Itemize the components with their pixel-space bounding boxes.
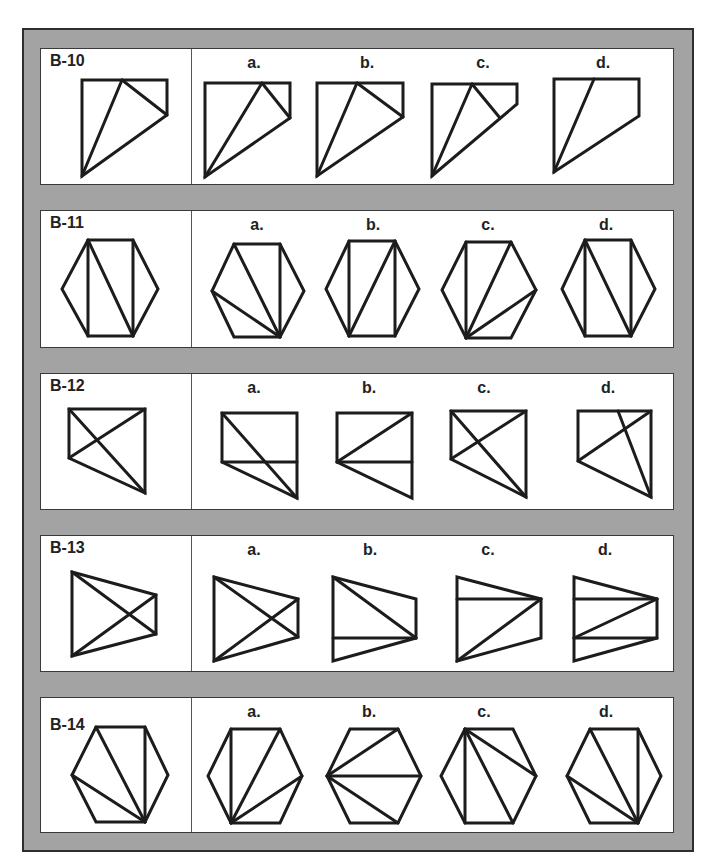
option-label-d[interactable]: d. bbox=[596, 54, 610, 72]
option-label-d[interactable]: d. bbox=[599, 216, 613, 234]
option-label-d[interactable]: d. bbox=[599, 703, 613, 721]
option-label-d[interactable]: d. bbox=[598, 541, 612, 559]
option-label-b[interactable]: b. bbox=[363, 541, 377, 559]
row-divider bbox=[191, 211, 192, 347]
row-divider bbox=[191, 49, 192, 184]
option-label-b[interactable]: b. bbox=[362, 379, 376, 397]
option-label-b[interactable]: b. bbox=[362, 703, 376, 721]
puzzle-row-b10: B-10 a. b. c. d. bbox=[40, 48, 674, 185]
question-label: B-10 bbox=[50, 52, 85, 70]
option-label-a[interactable]: a. bbox=[247, 541, 260, 559]
puzzle-row-b14: B-14 a. b. c. d. bbox=[40, 697, 674, 833]
option-label-c[interactable]: c. bbox=[481, 541, 494, 559]
puzzle-row-b11: B-11 a. b. c. d. bbox=[40, 210, 674, 348]
option-label-c[interactable]: c. bbox=[477, 379, 490, 397]
option-label-c[interactable]: c. bbox=[477, 703, 490, 721]
puzzle-row-b12: B-12 a. b. c. d. bbox=[40, 373, 674, 510]
option-label-a[interactable]: a. bbox=[250, 216, 263, 234]
option-label-a[interactable]: a. bbox=[247, 54, 260, 72]
row-divider bbox=[191, 374, 192, 509]
row-divider bbox=[191, 536, 192, 671]
question-label: B-13 bbox=[50, 539, 85, 557]
option-label-a[interactable]: a. bbox=[247, 379, 260, 397]
option-label-c[interactable]: c. bbox=[481, 216, 494, 234]
option-label-c[interactable]: c. bbox=[476, 54, 489, 72]
puzzle-row-b13: B-13 a. b. c. d. bbox=[40, 535, 674, 672]
option-label-b[interactable]: b. bbox=[360, 54, 374, 72]
question-label: B-12 bbox=[50, 377, 85, 395]
option-label-d[interactable]: d. bbox=[601, 379, 615, 397]
option-label-b[interactable]: b. bbox=[366, 216, 380, 234]
option-label-a[interactable]: a. bbox=[247, 703, 260, 721]
question-label: B-11 bbox=[50, 214, 84, 232]
question-label: B-14 bbox=[50, 716, 85, 734]
row-divider bbox=[191, 698, 192, 832]
